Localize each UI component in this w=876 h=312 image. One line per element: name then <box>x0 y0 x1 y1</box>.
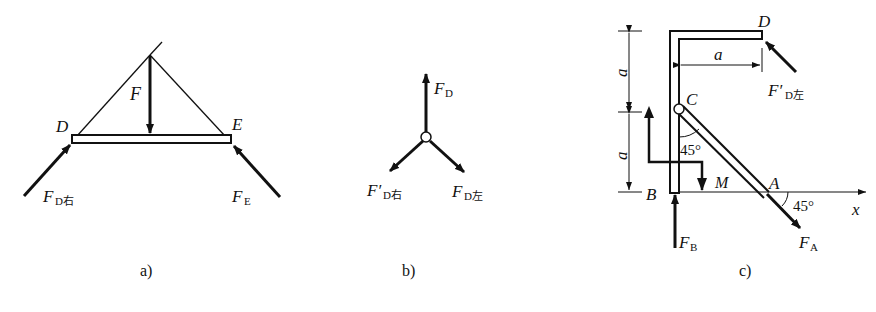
force-FD-right-prime-symbol: F′ <box>366 181 381 200</box>
force-FD-symbol: F <box>433 79 445 98</box>
force-FD-right-sub: D右 <box>55 194 74 207</box>
dim-label-bottom: a <box>612 152 631 161</box>
force-F-label: F <box>129 84 142 104</box>
force-FB-sub: B <box>690 241 697 253</box>
caption-a: a) <box>140 262 152 280</box>
point-B-label: B <box>646 185 657 204</box>
panel-b: F D F′ D右 F D左 b) <box>366 74 483 280</box>
statics-diagram: F D E F D右 F E a) F D F′ D右 F D左 b) x <box>0 0 876 312</box>
moment-M-arrowhead-down <box>697 178 707 191</box>
force-FD-left-prime-sub: D左 <box>785 89 804 101</box>
force-FD-sub: D <box>445 87 453 99</box>
force-FD-left-prime-symbol: F′ <box>767 81 782 100</box>
angle-arc-A <box>782 192 788 206</box>
panel-c: x C 45° M D B A 45° a a a <box>612 12 866 280</box>
panel-a: F D E F D右 F E a) <box>24 42 280 280</box>
pin-C <box>674 104 684 114</box>
x-axis-label: x <box>851 200 860 219</box>
dim-label-top: a <box>612 69 631 78</box>
angle-A-label: 45° <box>793 198 814 214</box>
force-FD-left-sub: D左 <box>464 190 483 202</box>
force-FD-left-prime-arrow <box>766 42 796 72</box>
force-FD-right-prime-arrow <box>390 141 423 171</box>
force-FA-sub: A <box>810 241 818 253</box>
moment-M-arrowhead-up <box>644 106 654 118</box>
caption-c: c) <box>739 262 751 280</box>
force-FD-right-symbol: F <box>42 187 54 206</box>
force-FE-sub: E <box>244 195 251 207</box>
point-C-label: C <box>686 90 698 109</box>
point-A-label: A <box>768 174 780 193</box>
point-D-label-c: D <box>757 12 771 31</box>
force-FD-left-arrow <box>430 141 464 172</box>
force-FA-symbol: F <box>798 233 810 252</box>
caption-b: b) <box>402 262 415 280</box>
point-E-label: E <box>231 115 243 134</box>
force-FE-symbol: F <box>231 187 243 206</box>
rope-right <box>150 55 225 136</box>
rope-extension <box>150 42 162 55</box>
beam-DE <box>72 135 231 143</box>
moment-M-label: M <box>714 174 730 191</box>
dim-label-horizontal: a <box>714 45 723 64</box>
angle-C-label: 45° <box>680 142 701 158</box>
force-FB-symbol: F <box>678 233 690 252</box>
force-FD-right-prime-sub: D右 <box>383 188 402 201</box>
pin-D <box>421 132 431 142</box>
point-D-label: D <box>55 117 69 136</box>
force-FD-left-symbol: F <box>451 182 463 201</box>
